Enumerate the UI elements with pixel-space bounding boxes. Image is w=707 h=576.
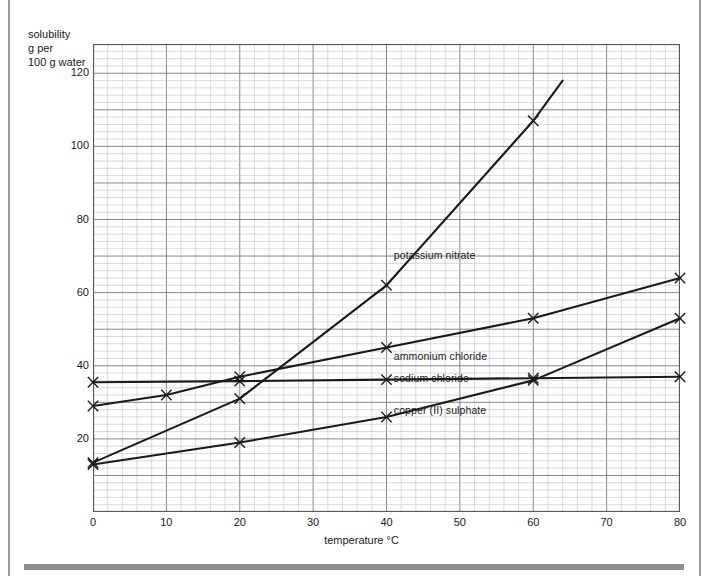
x-tick-30: 30 xyxy=(293,516,333,528)
y-tick-20: 20 xyxy=(51,432,89,444)
data-point-marker xyxy=(235,393,245,403)
y-tick-labels: 20406080100120 xyxy=(45,44,89,512)
x-tick-20: 20 xyxy=(220,516,260,528)
series-label-potassium-nitrate: potassium nitrate xyxy=(394,249,476,261)
y-tick-120: 120 xyxy=(51,66,89,78)
series-layer xyxy=(93,44,680,512)
x-tick-40: 40 xyxy=(367,516,407,528)
x-tick-60: 60 xyxy=(513,516,553,528)
series-label-ammonium-chloride: ammonium chloride xyxy=(394,350,487,362)
page-bottom-rule xyxy=(24,564,684,570)
series-sodium-chloride xyxy=(88,372,685,388)
x-tick-70: 70 xyxy=(587,516,627,528)
x-tick-50: 50 xyxy=(440,516,480,528)
y-tick-100: 100 xyxy=(51,139,89,151)
page-left-rule xyxy=(8,0,10,576)
x-tick-80: 80 xyxy=(660,516,700,528)
data-point-marker xyxy=(675,313,685,323)
figure-page: solubility g per 100 g water 20406080100… xyxy=(0,0,707,576)
x-tick-10: 10 xyxy=(146,516,186,528)
data-point-marker xyxy=(88,457,98,467)
page-right-rule xyxy=(699,0,701,576)
y-tick-80: 80 xyxy=(51,213,89,225)
plot-area: potassium nitrateammonium chloridesodium… xyxy=(93,44,680,512)
series-ammonium-chloride xyxy=(88,273,685,411)
series-potassium-nitrate xyxy=(88,81,563,468)
data-point-marker xyxy=(381,280,391,290)
series-label-copper-ii-sulphate: copper (II) sulphate xyxy=(394,404,486,416)
x-axis-title-wrap: temperature °C xyxy=(0,534,707,546)
series-label-sodium-chloride: sodium chloride xyxy=(394,372,469,384)
x-axis-title: temperature °C xyxy=(324,534,399,546)
x-tick-labels: 01020304050607080 xyxy=(93,516,680,534)
y-tick-40: 40 xyxy=(51,359,89,371)
data-point-marker xyxy=(528,116,538,126)
y-axis-title-line-1: solubility xyxy=(28,27,120,41)
y-tick-60: 60 xyxy=(51,286,89,298)
x-tick-0: 0 xyxy=(73,516,113,528)
